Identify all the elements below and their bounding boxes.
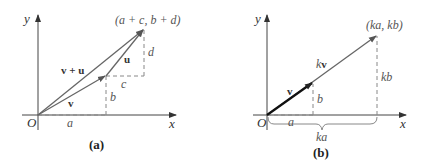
vector-v xyxy=(38,76,105,115)
component-d-label: d xyxy=(148,45,155,59)
vector-v-label: v xyxy=(287,85,293,97)
vector-kv-label: kv xyxy=(316,57,327,71)
vector-v-plus-u-label: v + u xyxy=(61,64,84,76)
endpoint-label: (a + c, b + d) xyxy=(115,13,181,27)
x-axis-label: x xyxy=(399,116,406,131)
origin-label: O xyxy=(27,115,37,130)
component-c-label: c xyxy=(121,77,127,91)
y-axis-label: y xyxy=(22,11,30,26)
endpoint-label: (ka, kb) xyxy=(366,18,403,32)
panel-b: y x O (ka, kb) v kv a b ka kb (b) xyxy=(253,11,406,160)
x-axis-label: x xyxy=(168,116,175,131)
y-axis-label: y xyxy=(253,11,261,26)
origin-label: O xyxy=(257,115,267,130)
vector-v-plus-u xyxy=(38,30,143,115)
component-ka-label: ka xyxy=(316,130,327,144)
vector-u-label: u xyxy=(124,53,130,65)
ka-brace xyxy=(268,117,377,130)
caption-b: (b) xyxy=(313,145,329,160)
vector-v-label: v xyxy=(68,97,74,109)
component-b-label: b xyxy=(317,92,323,106)
component-b-label: b xyxy=(110,90,116,104)
caption-a: (a) xyxy=(89,137,104,152)
component-a-label: a xyxy=(67,116,73,130)
component-kb-label: kb xyxy=(381,70,392,84)
vector-diagram: y x O (a + c, b + d) v u v + u a b c d (… xyxy=(0,0,431,162)
vector-kv-vector: v xyxy=(321,58,327,70)
component-a-label: a xyxy=(288,115,294,129)
panel-a: y x O (a + c, b + d) v u v + u a b c d (… xyxy=(22,11,181,152)
